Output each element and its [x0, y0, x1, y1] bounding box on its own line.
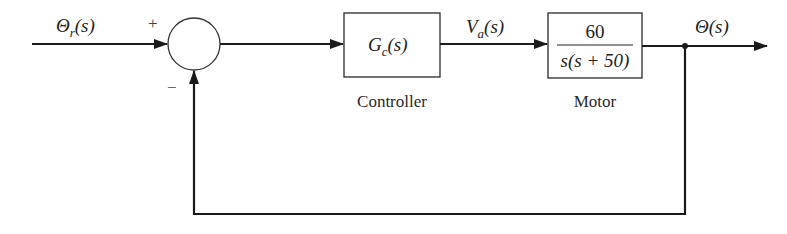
- controller-caption: Controller: [357, 92, 427, 111]
- input-signal-label: Θr(s): [56, 15, 95, 40]
- plus-sign: +: [148, 14, 158, 33]
- control-signal-label: Va(s): [466, 16, 504, 41]
- summing-junction: [168, 18, 220, 70]
- motor-numerator: 60: [586, 21, 605, 42]
- motor-caption: Motor: [574, 92, 617, 111]
- block-diagram: Θr(s) + − Gc(s) Controller Va(s) 60 s(s …: [0, 0, 787, 234]
- minus-sign: −: [167, 78, 177, 97]
- output-signal-label: Θ(s): [695, 16, 729, 38]
- motor-denominator: s(s + 50): [561, 50, 630, 72]
